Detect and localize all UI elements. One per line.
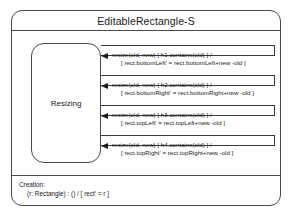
state-node-resizing[interactable]: Resizing xyxy=(31,43,101,163)
transition-label-2: resize(old, new) [ h2.contains(old) ] / … xyxy=(112,81,254,97)
diagram-title-bar: EditableRectangle-S xyxy=(12,11,280,31)
creation-signature: (r: Rectangle) : () / [ rect' = r ] xyxy=(19,189,109,198)
transition-arrowhead-4 xyxy=(101,143,108,149)
transition-label-3: resize(old, new) [ h3.contains(old) ] / … xyxy=(112,111,225,127)
state-node-label: Resizing xyxy=(51,99,82,108)
creation-compartment-divider xyxy=(12,175,280,176)
transition-arrowhead-3 xyxy=(101,113,108,119)
creation-heading: Creation: xyxy=(19,180,109,189)
transition-trigger-3: resize(old, new) [ h3.contains(old) ] / xyxy=(112,111,225,119)
transition-label-4: resize(old, new) [ h4.contains(old) ] / … xyxy=(112,141,233,157)
transition-effect-2: [ rect.bottomRight' = rect.bottomRight+n… xyxy=(112,89,254,97)
transition-trigger-1: resize(old, new) [ h1.contains(old) ] / xyxy=(112,51,246,59)
transition-arrowhead-2 xyxy=(101,83,108,89)
transition-arrowhead-1 xyxy=(101,53,108,59)
creation-compartment: Creation: (r: Rectangle) : () / [ rect' … xyxy=(19,180,109,198)
transition-effect-1: [ rect.bottomLeft' = rect.bottomLeft+new… xyxy=(112,59,246,67)
page-title: EditableRectangle-S xyxy=(97,15,195,27)
transition-trigger-2: resize(old, new) [ h2.contains(old) ] / xyxy=(112,81,254,89)
title-divider xyxy=(12,30,280,31)
transition-label-1: resize(old, new) [ h1.contains(old) ] / … xyxy=(112,51,246,67)
transition-effect-4: [ rect.topRight' = rect.topRight+new -ol… xyxy=(112,149,233,157)
transition-trigger-4: resize(old, new) [ h4.contains(old) ] / xyxy=(112,141,233,149)
transition-effect-3: [ rect.topLeft' = rect.topLeft+new -old … xyxy=(112,119,225,127)
statechart-diagram-canvas: EditableRectangle-S Resizing resize(old,… xyxy=(0,0,293,216)
